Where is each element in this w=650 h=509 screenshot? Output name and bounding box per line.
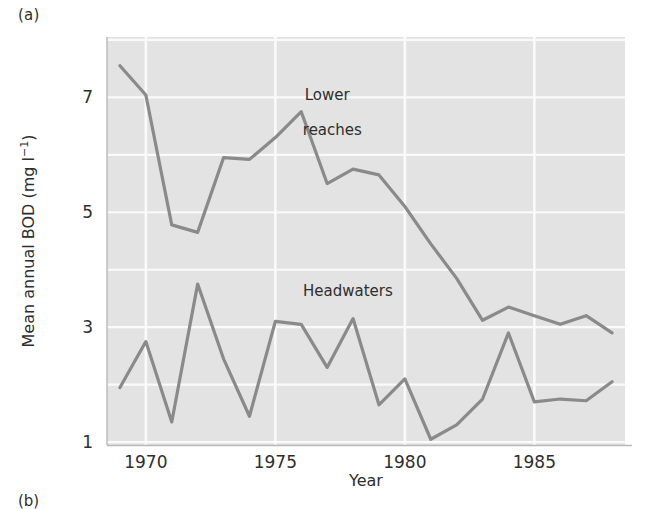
- figure-panel-a: (a) (b) 1357 1970197519801985 Lowerreach…: [0, 0, 650, 509]
- y-tick-label: 1: [82, 432, 93, 452]
- y-axis-title-exponent: −1: [18, 141, 31, 157]
- panel-label-b: (b): [18, 492, 39, 509]
- y-tick-label: 7: [82, 87, 93, 107]
- y-tick-labels: 1357: [82, 87, 93, 452]
- line-chart: 1357 1970197519801985 LowerreachesHeadwa…: [0, 0, 650, 509]
- y-tick-label: 3: [82, 317, 93, 337]
- x-tick-label: 1985: [513, 452, 556, 472]
- series-annotation-lower: Lower: [305, 86, 351, 104]
- x-tick-label: 1975: [254, 452, 297, 472]
- x-tick-labels: 1970197519801985: [124, 452, 556, 472]
- x-axis-title: Year: [348, 471, 383, 490]
- panel-label-a: (a): [18, 6, 40, 24]
- y-axis-title: Mean annual BOD (mg l−1): [18, 135, 38, 348]
- series-annotation-headwaters: Headwaters: [303, 282, 393, 300]
- y-tick-label: 5: [82, 202, 93, 222]
- x-tick-label: 1970: [124, 452, 167, 472]
- y-axis-title-suffix: ): [19, 135, 38, 141]
- x-tick-label: 1980: [383, 452, 426, 472]
- svg-text:Mean annual BOD (mg l−1): Mean annual BOD (mg l−1): [18, 135, 38, 348]
- series-annotation-reaches: reaches: [303, 121, 362, 139]
- y-axis-title-prefix: Mean annual BOD (mg l: [19, 157, 38, 347]
